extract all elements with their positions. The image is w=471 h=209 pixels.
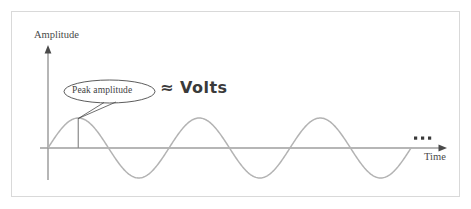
ellipsis-icon bbox=[414, 137, 431, 140]
y-axis-label: Amplitude bbox=[34, 30, 79, 41]
y-axis bbox=[45, 45, 52, 180]
callout-leader-line bbox=[78, 102, 116, 119]
peak-amplitude-callout-label: Peak amplitude bbox=[72, 86, 132, 96]
y-axis-arrow-icon bbox=[45, 45, 52, 54]
figure-canvas: Amplitude Time Peak amplitude ≈ Volts bbox=[0, 0, 471, 209]
x-axis-label: Time bbox=[424, 152, 446, 163]
volts-annotation: ≈ Volts bbox=[160, 80, 228, 96]
x-axis bbox=[40, 145, 447, 152]
